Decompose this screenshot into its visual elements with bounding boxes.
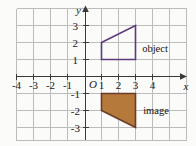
x-tick-label-3: 3 <box>133 79 139 91</box>
figure-background <box>0 0 196 146</box>
y-tick-label-3: 3 <box>73 20 79 32</box>
y-tick-label--1: -1 <box>71 88 80 100</box>
origin-label: O <box>89 78 97 90</box>
x-tick-label-4: 4 <box>150 79 156 91</box>
x-tick-label-1: 1 <box>99 79 105 91</box>
y-tick-label--3: -3 <box>71 122 81 134</box>
x-tick-label--3: -3 <box>29 79 39 91</box>
object-label: object <box>142 43 168 54</box>
x-axis-label: x <box>183 80 189 92</box>
y-tick-label--2: -2 <box>71 105 80 117</box>
coordinate-grid-figure: -4 -3 -2 -1 1 2 3 4 3 2 1 -1 -2 -3 O x y… <box>0 0 196 146</box>
graph-svg: -4 -3 -2 -1 1 2 3 4 3 2 1 -1 -2 -3 O x y… <box>0 0 196 146</box>
y-tick-label-1: 1 <box>73 54 79 66</box>
x-tick-label-2: 2 <box>116 79 122 91</box>
x-tick-label--4: -4 <box>12 79 22 91</box>
y-tick-label-2: 2 <box>73 37 79 49</box>
image-label: image <box>143 105 169 116</box>
x-tick-label--2: -2 <box>46 79 55 91</box>
y-axis-label: y <box>75 4 81 16</box>
